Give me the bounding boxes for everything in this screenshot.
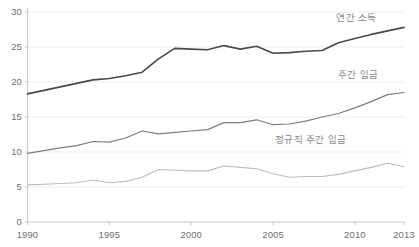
y-axis-tick-label: 5 xyxy=(0,182,22,192)
series-line-1 xyxy=(28,27,405,94)
x-axis-tick-label: 2005 xyxy=(253,230,293,240)
series-label-1: 연간 소득 xyxy=(336,12,376,23)
x-axis-tick-label: 1990 xyxy=(8,230,48,240)
y-axis-tick-label: 15 xyxy=(0,112,22,122)
y-axis-tick-label: 0 xyxy=(0,217,22,227)
series-label-2: 주간 임금 xyxy=(338,69,378,80)
x-axis-tick-label: 2013 xyxy=(384,230,419,240)
y-axis-tick-label: 25 xyxy=(0,42,22,52)
y-axis-tick-label: 30 xyxy=(0,7,22,17)
x-axis-tick-label: 2010 xyxy=(335,230,375,240)
y-axis-tick-label: 10 xyxy=(0,147,22,157)
series-label-3: 정규직 주간 임금 xyxy=(275,134,346,145)
series-line-2 xyxy=(28,93,405,154)
x-axis-tick-label: 2000 xyxy=(171,230,211,240)
y-axis-tick-label: 20 xyxy=(0,77,22,87)
data-series-group xyxy=(28,27,405,185)
series-line-3 xyxy=(28,163,405,185)
x-axis-tick-label: 1995 xyxy=(89,230,129,240)
gridlines xyxy=(28,12,405,187)
